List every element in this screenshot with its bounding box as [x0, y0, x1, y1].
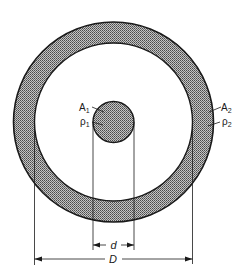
inner-core [93, 102, 134, 143]
d-label: d [110, 239, 117, 251]
D-label: D [109, 253, 117, 265]
cross-section-diagram: d D A1 ρ1 A2 ρ2 [0, 0, 243, 272]
